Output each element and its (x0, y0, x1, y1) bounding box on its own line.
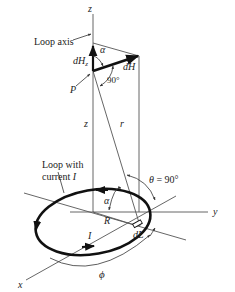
I-label: I (87, 230, 92, 241)
loop-label-line2: current I (42, 171, 77, 182)
r-line (93, 71, 140, 226)
point-P-label: P (69, 84, 76, 95)
dL-label: dL (133, 229, 144, 240)
right-angle-label: 90° (107, 75, 120, 85)
dHz-label: dHz (73, 55, 88, 68)
loop-axis-label: Loop axis (34, 36, 74, 47)
z-axis-label: z (87, 3, 92, 14)
alpha-top-label: α (100, 44, 106, 55)
phi-label: ϕ (99, 268, 105, 280)
theta-label: θ = 90° (149, 174, 179, 185)
alpha-arc-top (93, 56, 103, 66)
R-line (93, 212, 138, 226)
y-axis-label: y (212, 206, 218, 217)
point-pointer (76, 74, 90, 86)
loop-axis-pointer (73, 34, 91, 40)
x-axis-label: x (17, 279, 23, 290)
loop-field-diagram: z Loop axis dHz α dH 90° P z r Loop with… (0, 0, 235, 292)
loop-arrow-bottom (82, 246, 94, 247)
dL-pointer (150, 228, 155, 236)
z-height-label: z (83, 118, 88, 129)
dH-label: dH (123, 61, 136, 72)
r-label: r (120, 118, 124, 129)
loop-label-line1: Loop with (42, 159, 83, 170)
loop-arrow-left (36, 223, 37, 230)
R-label: R (103, 215, 110, 226)
alpha-bottom-label: α (104, 195, 110, 206)
